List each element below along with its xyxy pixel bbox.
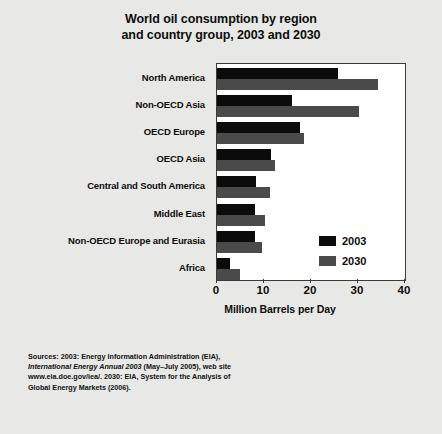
x-tick-mark <box>404 279 405 283</box>
chart-page: World oil consumption by region and coun… <box>0 0 442 434</box>
bar-2003 <box>217 176 256 187</box>
bar-2030 <box>217 215 265 226</box>
legend-item: 2003 <box>319 232 395 250</box>
bar-chart: North AmericaNon-OECD AsiaOECD EuropeOEC… <box>0 60 442 300</box>
category-label: Non-OECD Asia <box>0 99 205 110</box>
sources-line-1: Sources: 2003: Energy Information Admini… <box>28 352 278 362</box>
sources-line-2: International Energy Annual 2003 (May–Ju… <box>28 362 278 372</box>
plot-area: 20032030 <box>216 63 406 281</box>
sources-line-3: www.eia.doe.gov/iea/. 2030: EIA, System … <box>28 372 278 382</box>
bar-2030 <box>217 242 262 253</box>
bar-2030 <box>217 79 378 90</box>
x-tick-mark <box>216 279 217 283</box>
sources-line-2-rest: (May–July 2005), web site <box>142 362 232 371</box>
chart-legend: 20032030 <box>319 232 395 272</box>
x-tick-label: 30 <box>342 284 372 296</box>
legend-swatch-icon <box>319 256 336 266</box>
category-label: OECD Asia <box>0 153 205 164</box>
x-tick-mark <box>357 279 358 283</box>
x-tick-label: 0 <box>201 284 231 296</box>
category-label: Africa <box>0 262 205 273</box>
x-tick-mark <box>310 279 311 283</box>
title-line-1: World oil consumption by region <box>0 11 442 27</box>
legend-label: 2003 <box>342 235 366 247</box>
sources-publication-title: International Energy Annual 2003 <box>28 362 142 371</box>
sources-line-4: Global Energy Markets (2006). <box>28 383 278 393</box>
x-axis-title: Million Barrels per Day <box>150 303 410 315</box>
category-label: Central and South America <box>0 180 205 191</box>
x-tick-label: 10 <box>248 284 278 296</box>
bar-2030 <box>217 106 359 117</box>
page-title: World oil consumption by region and coun… <box>0 11 442 43</box>
bar-2003 <box>217 258 230 269</box>
bar-2003 <box>217 149 271 160</box>
bar-2003 <box>217 122 300 133</box>
bar-2003 <box>217 231 255 242</box>
bar-2003 <box>217 95 292 106</box>
category-label: North America <box>0 72 205 83</box>
x-tick-mark <box>263 279 264 283</box>
sources-note: Sources: 2003: Energy Information Admini… <box>28 352 278 393</box>
legend-swatch-icon <box>319 236 336 246</box>
category-label: Non-OECD Europe and Eurasia <box>0 235 205 246</box>
bar-2030 <box>217 187 270 198</box>
category-label: Middle East <box>0 208 205 219</box>
bar-2003 <box>217 68 338 79</box>
title-line-2: and country group, 2003 and 2030 <box>0 27 442 43</box>
legend-label: 2030 <box>342 255 366 267</box>
legend-item: 2030 <box>319 252 395 270</box>
x-tick-label: 20 <box>295 284 325 296</box>
bar-2003 <box>217 204 255 215</box>
category-axis-labels: North AmericaNon-OECD AsiaOECD EuropeOEC… <box>0 60 211 280</box>
x-tick-label: 40 <box>389 284 419 296</box>
bar-2030 <box>217 160 275 171</box>
category-label: OECD Europe <box>0 126 205 137</box>
bar-2030 <box>217 133 304 144</box>
